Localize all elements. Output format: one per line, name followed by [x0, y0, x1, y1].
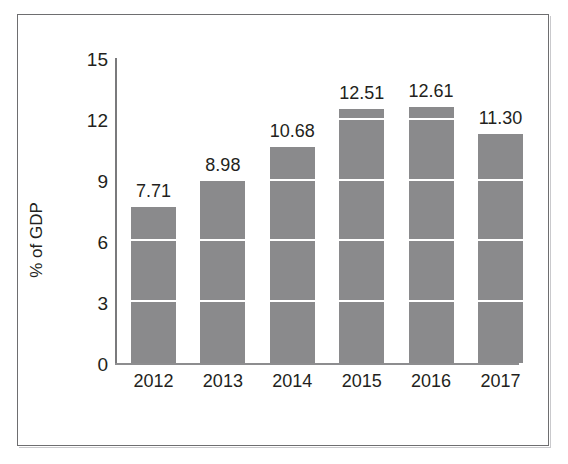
- gridline: [339, 300, 384, 302]
- gridline: [478, 239, 523, 241]
- bar-2012[interactable]: [131, 207, 176, 363]
- bar-value-label-2012: 7.71: [119, 182, 189, 200]
- gridline: [131, 300, 176, 302]
- gridline: [270, 239, 315, 241]
- x-tick-label-2013: 2013: [188, 372, 258, 390]
- x-tick-label-2015: 2015: [327, 372, 397, 390]
- gridline: [339, 179, 384, 181]
- bar-2014[interactable]: [270, 147, 315, 363]
- gridline: [131, 239, 176, 241]
- bar-value-label-2017: 11.30: [466, 109, 536, 127]
- y-tick-label-3: 3: [68, 294, 108, 313]
- gridline: [409, 239, 454, 241]
- bar-value-label-2014: 10.68: [257, 122, 327, 140]
- x-tick-label-2012: 2012: [119, 372, 189, 390]
- y-axis-tick-labels: 15 12 9 6 3 0: [60, 0, 108, 464]
- gridline: [478, 179, 523, 181]
- x-tick-label-2014: 2014: [257, 372, 327, 390]
- bar-value-label-2016: 12.61: [396, 82, 466, 100]
- bar-2013[interactable]: [200, 181, 245, 363]
- bar-2015[interactable]: [339, 109, 384, 363]
- gridline: [409, 179, 454, 181]
- gridline: [200, 239, 245, 241]
- y-tick-label-6: 6: [68, 233, 108, 252]
- bar-value-label-2013: 8.98: [188, 156, 258, 174]
- y-tick-label-15: 15: [68, 50, 108, 69]
- y-tick-label-12: 12: [68, 111, 108, 130]
- bar-2017[interactable]: [478, 134, 523, 363]
- gridline: [409, 300, 454, 302]
- x-tick-label-2016: 2016: [396, 372, 466, 390]
- gridline: [270, 300, 315, 302]
- plot-area: [115, 59, 535, 363]
- gridline: [409, 118, 454, 120]
- bar-2016[interactable]: [409, 107, 454, 363]
- gridline: [200, 300, 245, 302]
- bar-value-label-2015: 12.51: [327, 84, 397, 102]
- gridline: [270, 179, 315, 181]
- gridline: [478, 300, 523, 302]
- gridline: [339, 239, 384, 241]
- gridline: [339, 118, 384, 120]
- y-tick-label-9: 9: [68, 172, 108, 191]
- figure-container: % of GDP 15 12 9 6 3 0 7.71 8.98 10.68 1…: [0, 0, 568, 464]
- x-axis-line: [115, 363, 519, 365]
- y-tick-label-0: 0: [68, 355, 108, 374]
- x-tick-label-2017: 2017: [466, 372, 536, 390]
- y-axis-title: % of GDP: [27, 175, 53, 305]
